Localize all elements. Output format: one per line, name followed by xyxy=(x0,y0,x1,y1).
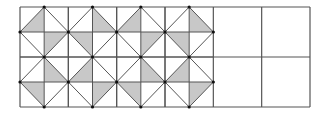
vertex-dot xyxy=(115,30,118,33)
vertex-dot xyxy=(188,5,191,8)
vertex-dot xyxy=(18,30,21,33)
vertex-dot xyxy=(188,105,191,108)
vertex-dot xyxy=(18,80,21,83)
vertex-dot xyxy=(67,80,70,83)
vertex-dot xyxy=(212,80,215,83)
vertex-dot xyxy=(91,5,94,8)
vertex-dot xyxy=(91,105,94,108)
big-cell-grid-lines xyxy=(20,7,310,107)
diagram-canvas xyxy=(0,0,325,114)
vertex-dot xyxy=(139,5,142,8)
vertex-dot xyxy=(163,80,166,83)
vertex-dot xyxy=(212,30,215,33)
vertex-dot xyxy=(139,105,142,108)
vertex-dot xyxy=(139,55,142,58)
vertex-dot xyxy=(67,30,70,33)
vertex-dot xyxy=(115,80,118,83)
tiled-diamond-grid xyxy=(0,0,325,114)
vertex-dot xyxy=(188,55,191,58)
vertex-dot xyxy=(91,55,94,58)
vertex-dot xyxy=(163,30,166,33)
vertex-dot xyxy=(43,105,46,108)
vertex-dot xyxy=(43,55,46,58)
vertex-dot xyxy=(43,5,46,8)
